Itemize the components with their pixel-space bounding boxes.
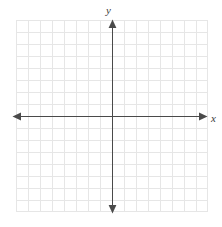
coordinate-plane-svg	[0, 0, 222, 227]
x-axis-label: x	[211, 113, 216, 124]
coordinate-grid-figure: y x	[0, 0, 222, 227]
y-axis-label: y	[106, 5, 111, 16]
